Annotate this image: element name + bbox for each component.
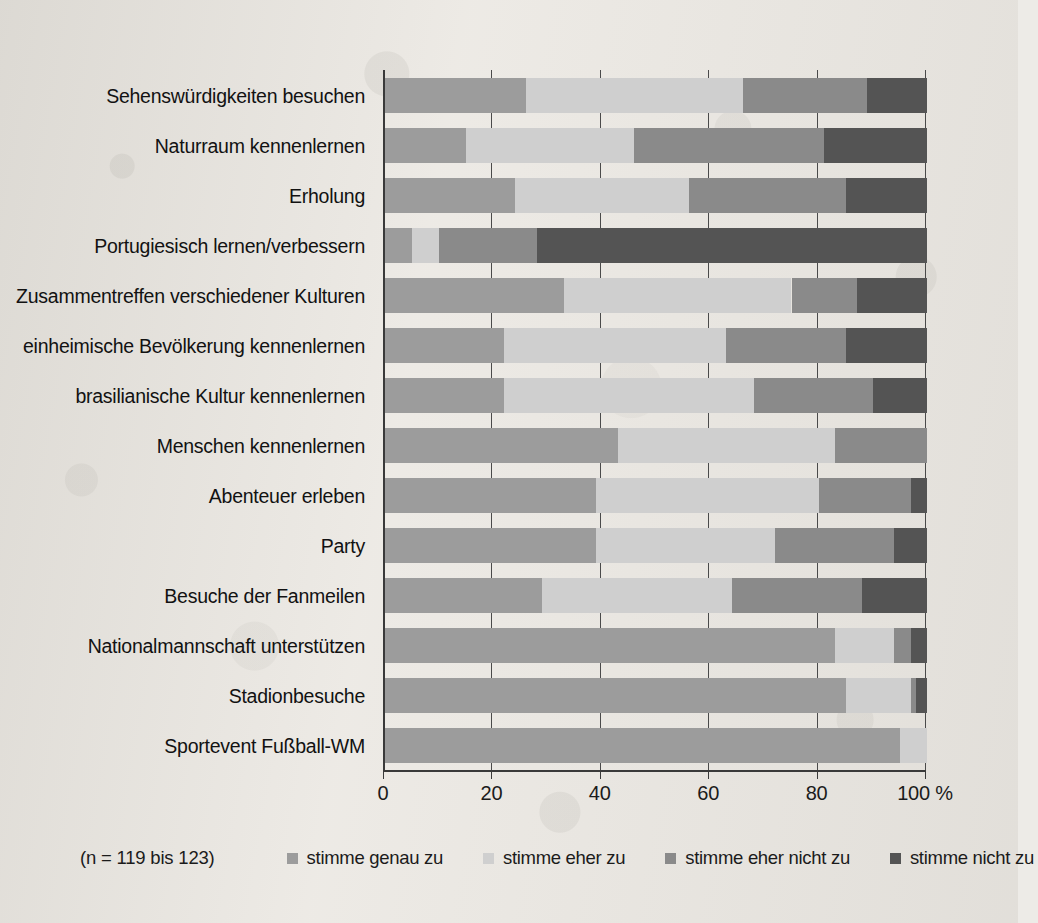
bar-row <box>385 128 927 163</box>
bar-segment <box>857 278 927 313</box>
bar-segment <box>900 728 927 763</box>
x-tick-mark <box>600 770 601 779</box>
gridline <box>491 70 492 770</box>
bar-segment <box>596 528 775 563</box>
x-tick-mark <box>925 770 926 779</box>
x-tick-mark <box>491 770 492 779</box>
bar-segment <box>634 128 824 163</box>
category-label: Sportevent Fußball-WM <box>5 735 365 758</box>
bar-row <box>385 478 927 513</box>
bar-row <box>385 278 927 313</box>
bar-row <box>385 78 927 113</box>
x-tick-mark <box>708 770 709 779</box>
legend-swatch-icon <box>483 853 494 864</box>
sample-size-note: (n = 119 bis 123) <box>80 847 215 869</box>
bar-segment <box>526 78 743 113</box>
x-tick-mark <box>383 770 384 779</box>
bar-row <box>385 328 927 363</box>
category-label: einheimische Bevölkerung kennenlernen <box>5 335 365 358</box>
bar-row <box>385 428 927 463</box>
legend-item[interactable]: stimme nicht zu <box>890 847 1034 869</box>
bar-segment <box>504 328 726 363</box>
category-label: Stadionbesuche <box>5 685 365 708</box>
bar-segment <box>385 478 596 513</box>
bar-segment <box>537 228 927 263</box>
legend: (n = 119 bis 123) stimme genau zustimme … <box>80 845 960 871</box>
bar-segment <box>542 578 732 613</box>
bar-segment <box>775 528 894 563</box>
bar-segment <box>911 478 927 513</box>
bar-segment <box>732 578 862 613</box>
x-tick-label: 60 <box>697 782 719 805</box>
bar-segment <box>835 428 927 463</box>
category-label: Naturraum kennenlernen <box>5 135 365 158</box>
bar-segment <box>835 628 895 663</box>
bar-row <box>385 178 927 213</box>
gridline <box>708 70 709 770</box>
bar-segment <box>385 328 504 363</box>
bar-segment <box>385 78 526 113</box>
category-label: Besuche der Fanmeilen <box>5 585 365 608</box>
bar-segment <box>894 628 910 663</box>
legend-label: stimme genau zu <box>307 847 443 869</box>
bar-segment <box>792 278 857 313</box>
category-label: Abenteuer erleben <box>5 485 365 508</box>
legend-item[interactable]: stimme eher zu <box>483 847 625 869</box>
bar-segment <box>515 178 688 213</box>
legend-swatch-icon <box>665 853 676 864</box>
bar-row <box>385 228 927 263</box>
bar-segment <box>846 178 927 213</box>
legend-label: stimme eher zu <box>503 847 625 869</box>
bar-segment <box>846 328 927 363</box>
gridline <box>817 70 818 770</box>
bar-segment <box>385 378 504 413</box>
bar-segment <box>819 478 911 513</box>
bar-segment <box>385 678 846 713</box>
bar-segment <box>412 228 439 263</box>
x-tick-label: 20 <box>480 782 502 805</box>
x-axis-line <box>383 770 926 772</box>
legend-items: stimme genau zustimme eher zustimme eher… <box>287 847 1038 869</box>
bar-segment <box>726 328 845 363</box>
category-label: Nationalmannschaft unterstützen <box>5 635 365 658</box>
category-label: Party <box>5 535 365 558</box>
bar-segment <box>385 128 466 163</box>
bar-segment <box>846 678 911 713</box>
category-label: Zusammentreffen verschiedener Kulturen <box>5 285 365 308</box>
bar-segment <box>466 128 634 163</box>
category-label: Portugiesisch lernen/verbessern <box>5 235 365 258</box>
x-tick-label: 0 <box>378 782 389 805</box>
bar-segment <box>385 278 564 313</box>
y-axis-line <box>383 70 385 770</box>
bar-segment <box>867 78 927 113</box>
bar-segment <box>862 578 927 613</box>
bar-row <box>385 578 927 613</box>
legend-label: stimme nicht zu <box>910 847 1034 869</box>
bar-segment <box>385 578 542 613</box>
gridline <box>600 70 601 770</box>
bar-segment <box>385 728 900 763</box>
bar-segment <box>596 478 818 513</box>
legend-label: stimme eher nicht zu <box>685 847 850 869</box>
legend-item[interactable]: stimme genau zu <box>287 847 443 869</box>
bar-segment <box>824 128 927 163</box>
x-tick-label: 100 % <box>897 782 953 805</box>
legend-item[interactable]: stimme eher nicht zu <box>665 847 850 869</box>
bar-segment <box>911 628 927 663</box>
x-tick-label: 80 <box>806 782 828 805</box>
bar-segment <box>385 228 412 263</box>
bar-segment <box>754 378 873 413</box>
category-label: Erholung <box>5 185 365 208</box>
bar-row <box>385 678 927 713</box>
bar-segment <box>743 78 868 113</box>
bar-segment <box>618 428 835 463</box>
bar-segment <box>873 378 927 413</box>
bar-segment <box>385 628 835 663</box>
category-label: brasilianische Kultur kennenlernen <box>5 385 365 408</box>
category-axis-labels: Sehenswürdigkeiten besuchenNaturraum ken… <box>0 70 365 770</box>
plot-area: 020406080100 % <box>383 70 925 770</box>
bar-segment <box>385 178 515 213</box>
bar-segment <box>564 278 792 313</box>
x-tick-label: 40 <box>589 782 611 805</box>
